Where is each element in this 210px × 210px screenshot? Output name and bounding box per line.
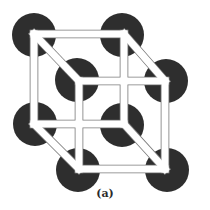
connector-top-right (124, 34, 165, 81)
unit-cell-diagram (0, 0, 210, 210)
figure-caption: (a) (0, 187, 210, 200)
connector-bottom-left (34, 124, 79, 169)
connector-bottom-right (124, 124, 165, 169)
